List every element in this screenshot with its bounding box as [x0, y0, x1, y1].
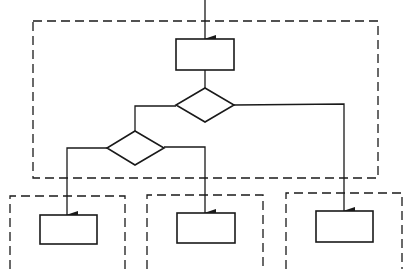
connector-decision-2-to-branch-2 [164, 147, 205, 213]
connector-decision-1-to-branch-3 [234, 104, 344, 211]
decision-1-diamond [176, 88, 234, 122]
flowchart-diagram [0, 0, 411, 269]
decision-2-diamond [107, 131, 164, 165]
process-branch-2-box [177, 213, 235, 243]
connector-decision-2-to-branch-1 [67, 148, 107, 215]
process-branch-1-box [40, 215, 97, 244]
process-top-box [176, 39, 234, 70]
connector-decision-1-to-decision-2 [135, 106, 176, 131]
process-branch-3-box [316, 211, 373, 242]
